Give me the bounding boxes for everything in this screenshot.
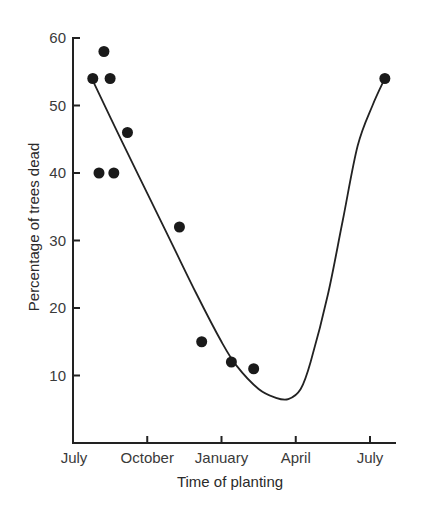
data-point: [122, 127, 133, 138]
x-tick-label: July: [61, 449, 88, 466]
y-axis-label: Percentage of trees dead: [25, 143, 42, 311]
data-point: [93, 168, 104, 179]
data-point: [105, 73, 116, 84]
x-tick-label: January: [195, 449, 249, 466]
data-point: [87, 73, 98, 84]
y-tick-label: 60: [49, 29, 66, 46]
x-ticks: JulyOctoberJanuaryAprilJuly: [61, 436, 384, 466]
data-point: [108, 168, 119, 179]
x-axis-label: Time of planting: [177, 473, 283, 490]
data-point: [196, 336, 207, 347]
y-tick-label: 50: [49, 97, 66, 114]
x-tick-label: October: [121, 449, 174, 466]
data-point: [174, 222, 185, 233]
data-point: [379, 73, 390, 84]
data-point: [98, 46, 109, 57]
data-point: [226, 357, 237, 368]
y-ticks: 102030405060: [49, 29, 80, 384]
y-tick-label: 40: [49, 164, 66, 181]
x-tick-label: July: [357, 449, 384, 466]
x-tick-label: April: [281, 449, 311, 466]
fitted-curve: [94, 79, 385, 400]
y-tick-label: 10: [49, 367, 66, 384]
y-tick-label: 20: [49, 299, 66, 316]
y-tick-label: 30: [49, 232, 66, 249]
axes: [72, 37, 396, 444]
tree-mortality-chart: 102030405060 JulyOctoberJanuaryAprilJuly…: [0, 0, 424, 511]
data-point: [248, 363, 259, 374]
